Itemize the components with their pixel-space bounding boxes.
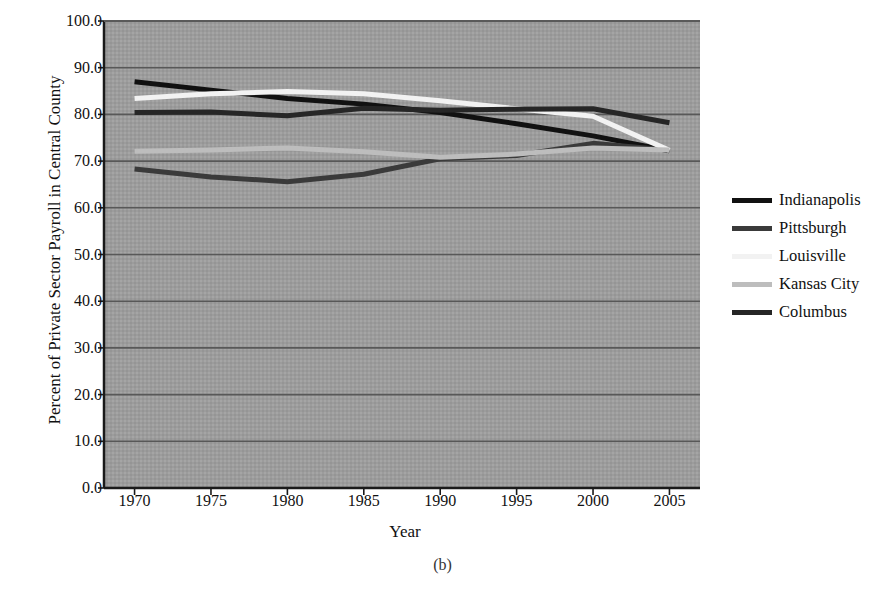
legend-item: Columbus — [732, 298, 882, 326]
y-tick-label: 60.0 — [32, 199, 102, 217]
y-axis-ticks: 0.010.020.030.040.050.060.070.080.090.01… — [32, 0, 102, 589]
chart-legend: IndianapolisPittsburghLouisvilleKansas C… — [732, 186, 882, 326]
x-axis-title: Year — [100, 522, 710, 542]
y-tick-label: 40.0 — [32, 292, 102, 310]
legend-swatch-icon — [732, 282, 772, 287]
legend-item: Pittsburgh — [732, 214, 882, 242]
x-tick-label: 1980 — [271, 492, 303, 510]
legend-swatch-icon — [732, 198, 772, 203]
x-tick-label: 2000 — [577, 492, 609, 510]
x-tick-label: 1970 — [119, 492, 151, 510]
x-tick-label: 1990 — [424, 492, 456, 510]
legend-item: Louisville — [732, 242, 882, 270]
y-tick-label: 70.0 — [32, 152, 102, 170]
figure-panel-b: Percent of Private Sector Payroll in Cen… — [0, 0, 885, 589]
y-tick-label: 90.0 — [32, 59, 102, 77]
x-tick-label: 1975 — [195, 492, 227, 510]
y-tick-label: 80.0 — [32, 105, 102, 123]
x-tick-label: 1985 — [348, 492, 380, 510]
legend-label: Columbus — [779, 302, 847, 322]
legend-swatch-icon — [732, 254, 772, 259]
x-tick-label: 1995 — [501, 492, 533, 510]
legend-swatch-icon — [732, 310, 772, 315]
legend-label: Pittsburgh — [779, 218, 847, 238]
y-tick-label: 10.0 — [32, 432, 102, 450]
figure-caption: (b) — [0, 556, 885, 574]
legend-swatch-icon — [732, 226, 772, 231]
y-tick-label: 100.0 — [32, 12, 102, 30]
y-tick-label: 50.0 — [32, 246, 102, 264]
x-tick-label: 2005 — [653, 492, 685, 510]
y-tick-label: 20.0 — [32, 386, 102, 404]
legend-label: Kansas City — [779, 274, 859, 294]
legend-item: Indianapolis — [732, 186, 882, 214]
legend-item: Kansas City — [732, 270, 882, 298]
legend-label: Louisville — [779, 246, 846, 266]
y-tick-label: 0.0 — [32, 479, 102, 497]
y-tick-label: 30.0 — [32, 339, 102, 357]
legend-label: Indianapolis — [779, 190, 861, 210]
